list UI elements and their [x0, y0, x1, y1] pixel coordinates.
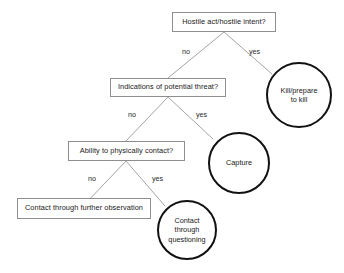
edge-hostile-no — [168, 32, 224, 78]
outcome-capture-circle[interactable]: Capture — [208, 132, 270, 194]
outcome-contact-questioning-circle[interactable]: Contact through questioning — [157, 200, 217, 260]
decision-hostile-act-box[interactable]: Hostile act/hostile intent? — [172, 12, 276, 32]
edge-label-level1-no: no — [182, 48, 190, 55]
decision-tree-diagram: Hostile act/hostile intent? no yes Kill/… — [0, 0, 344, 273]
decision-indications-threat-label: Indications of potential threat? — [118, 83, 218, 92]
outcome-contact-questioning-label: Contact through questioning — [168, 216, 205, 244]
edge-hostile-yes — [224, 32, 272, 74]
decision-ability-contact-box[interactable]: Ability to physically contact? — [68, 141, 185, 161]
decision-hostile-act-label: Hostile act/hostile intent? — [182, 18, 266, 27]
decision-indications-threat-box[interactable]: Indications of potential threat? — [110, 78, 226, 97]
decision-ability-contact-label: Ability to physically contact? — [80, 147, 174, 156]
outcome-kill-prepare-circle[interactable]: Kill/prepare to kill — [266, 62, 332, 128]
outcome-kill-prepare-label: Kill/prepare to kill — [281, 86, 318, 105]
edge-label-level3-no: no — [88, 175, 96, 182]
terminal-further-observation-box[interactable]: Contact through further observation — [17, 198, 151, 219]
edge-label-level2-no: no — [128, 111, 136, 118]
edge-indications-no — [126, 97, 168, 141]
outcome-capture-label: Capture — [226, 158, 252, 167]
terminal-further-observation-label: Contact through further observation — [25, 204, 143, 213]
edge-label-level1-yes: yes — [249, 48, 260, 55]
edge-label-level3-yes: yes — [152, 175, 163, 182]
edge-label-level2-yes: yes — [196, 111, 207, 118]
